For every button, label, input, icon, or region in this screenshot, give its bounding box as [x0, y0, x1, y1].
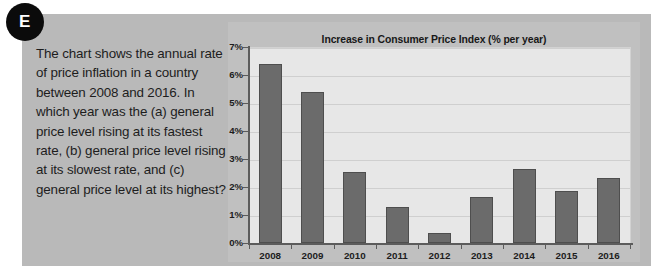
y-axis-tick-label: 2% — [229, 181, 243, 192]
question-prompt-text: The chart shows the annual rate of price… — [36, 44, 226, 199]
question-letter-badge: E — [6, 3, 44, 41]
y-axis-tick-label: 0% — [229, 237, 243, 248]
y-axis-tick-mark — [243, 243, 248, 244]
y-axis-tick-mark — [243, 187, 248, 188]
y-axis-tick-mark — [243, 75, 248, 76]
x-axis-tick-mark — [461, 245, 462, 249]
x-axis-tick-label: 2010 — [334, 250, 376, 261]
chart-bar — [301, 92, 324, 243]
gridline — [249, 48, 630, 49]
x-axis-tick-mark — [249, 245, 250, 249]
chart-bar — [597, 178, 620, 243]
y-axis-tick-mark — [243, 215, 248, 216]
x-axis-tick-mark — [503, 245, 504, 249]
chart-bar — [259, 64, 282, 243]
x-axis-tick-mark — [418, 245, 419, 249]
y-axis-line — [248, 46, 250, 244]
y-axis-tick-label: 6% — [229, 69, 243, 80]
x-axis-tick-label: 2009 — [291, 250, 333, 261]
x-axis-tick-label: 2015 — [545, 250, 587, 261]
x-axis-tick-mark — [630, 245, 631, 249]
y-axis-tick-mark — [243, 159, 248, 160]
y-axis-tick-label: 4% — [229, 125, 243, 136]
x-axis-tick-mark — [291, 245, 292, 249]
question-letter-badge-label: E — [19, 12, 31, 32]
x-axis-tick-mark — [376, 245, 377, 249]
chart-bar — [386, 207, 409, 243]
x-axis-tick-label: 2011 — [376, 250, 418, 261]
x-axis-tick-label: 2013 — [461, 250, 503, 261]
x-axis-tick-mark — [588, 245, 589, 249]
chart-bar — [555, 191, 578, 243]
chart-title: Increase in Consumer Price Index (% per … — [228, 34, 640, 45]
y-axis-tick-label: 1% — [229, 209, 243, 220]
bar-chart-figure: Increase in Consumer Price Index (% per … — [228, 22, 640, 262]
chart-bar — [513, 169, 536, 243]
x-axis-tick-mark — [334, 245, 335, 249]
y-axis-tick-label: 5% — [229, 97, 243, 108]
x-axis-tick-label: 2012 — [418, 250, 460, 261]
x-axis-line — [248, 243, 633, 245]
chart-bar — [470, 197, 493, 243]
y-axis-tick-mark — [243, 131, 248, 132]
x-axis-tick-label: 2016 — [588, 250, 630, 261]
chart-bar — [428, 233, 451, 243]
y-axis-tick-mark — [243, 103, 248, 104]
x-axis-tick-label: 2014 — [503, 250, 545, 261]
y-axis-tick-label: 7% — [229, 41, 243, 52]
x-axis-tick-label: 2008 — [249, 250, 291, 261]
chart-bar — [343, 172, 366, 243]
y-axis-tick-mark — [243, 47, 248, 48]
y-axis-tick-label: 3% — [229, 153, 243, 164]
gridline — [249, 76, 630, 77]
x-axis-tick-mark — [545, 245, 546, 249]
